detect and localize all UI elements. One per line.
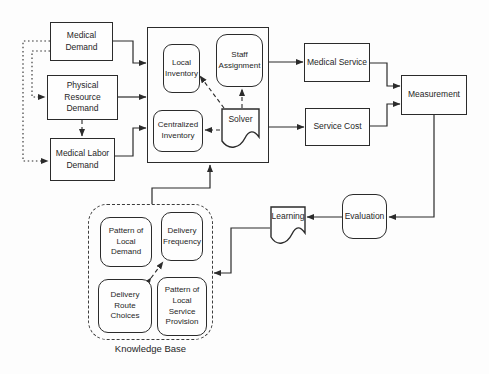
node-medical-labor-demand: Medical Labor Demand (50, 138, 115, 181)
arrow-medical-service-to-measurement (370, 63, 400, 86)
node-solver: Solver (221, 108, 260, 154)
node-solver-label: Solver (221, 114, 260, 124)
node-staff-assignment: Staff Assignment (216, 34, 263, 87)
arrow-medical-demand-to-system (113, 41, 146, 63)
node-medical-demand: Medical Demand (50, 22, 113, 61)
node-delivery-frequency: Delivery Frequency (161, 212, 203, 261)
node-physical-resource-demand: Physical Resource Demand (47, 75, 118, 120)
diagram-canvas: Medical Demand Physical Resource Demand … (0, 0, 489, 374)
node-medical-service: Medical Service (304, 43, 370, 82)
node-evaluation: Evaluation (342, 194, 387, 239)
arrow-service-cost-to-measurement (370, 104, 400, 126)
node-pattern-of-local-demand: Pattern of Local Demand (100, 217, 152, 267)
arrow-medical-demand-to-medical-labor (23, 41, 50, 161)
arrow-learning-to-knowledge-base (214, 228, 270, 273)
node-measurement: Measurement (401, 75, 467, 115)
node-learning-label: Learning (270, 211, 306, 221)
node-service-cost: Service Cost (305, 108, 370, 146)
node-pattern-of-local-service-provision: Pattern of Local Service Provision (157, 277, 207, 336)
node-centralized-inventory: Centralized Inventory (153, 110, 203, 152)
node-delivery-route-choices: Delivery Route Choices (98, 279, 152, 333)
arrow-measurement-to-evaluation (389, 115, 434, 217)
arrow-knowledge-base-to-system (152, 165, 210, 204)
node-learning: Learning (270, 206, 306, 250)
arrow-medical-labor-to-system (115, 128, 146, 156)
node-local-inventory: Local Inventory (163, 44, 200, 93)
knowledge-base-caption: Knowledge Base (88, 343, 213, 354)
